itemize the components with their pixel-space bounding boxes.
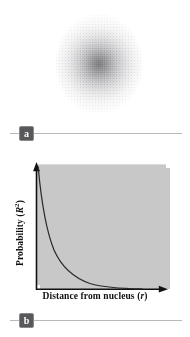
panel-b-badge: b: [19, 313, 34, 328]
y-axis-label-prefix: Probability (: [15, 213, 25, 266]
x-axis-label: Distance from nucleus (r): [0, 291, 190, 301]
figure-root: a Probability (R2) Distance from nucleus…: [0, 0, 190, 337]
y-axis: [33, 162, 40, 290]
x-axis-label-suffix: ): [144, 291, 147, 301]
panel-b-divider-rule: [10, 320, 182, 321]
y-axis-label-container: Probability (R2): [9, 178, 29, 288]
y-axis-label-variable: R: [15, 207, 25, 213]
x-axis-label-prefix: Distance from nucleus (: [43, 291, 141, 301]
panel-a-badge: a: [19, 126, 34, 141]
panel-b-caption-row: b: [0, 313, 190, 329]
probability-decay-curve: [38, 167, 142, 289]
y-axis-label-exponent: 2: [13, 203, 21, 207]
electron-probability-cloud: [57, 16, 141, 112]
panel-a-caption-row: a: [0, 126, 190, 142]
electron-cloud-density-gradient: [57, 16, 141, 112]
y-axis-label: Probability (R2): [13, 200, 25, 266]
panel-a-divider-rule: [10, 133, 182, 134]
y-axis-label-suffix: ): [15, 200, 25, 203]
panel-a-electron-cloud: [0, 0, 190, 120]
